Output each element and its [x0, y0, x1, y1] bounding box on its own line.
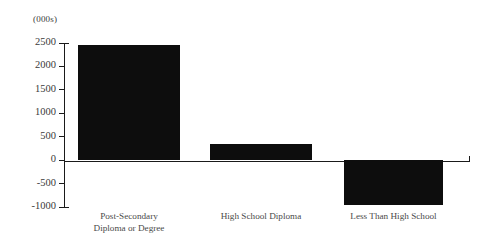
y-axis-tick-label: 0	[4, 153, 56, 164]
y-axis-tick	[59, 207, 65, 208]
y-axis-tick-label: 2500	[4, 36, 56, 47]
y-axis-tick-label: 2000	[4, 59, 56, 70]
y-axis-tick	[59, 113, 65, 114]
x-axis-category-label: Post-Secondary Diploma or Degree	[64, 211, 194, 234]
y-axis-tick-label: 500	[4, 130, 56, 141]
bar	[78, 45, 180, 160]
zero-baseline-end-cap	[469, 156, 470, 162]
y-axis-unit-caption: (000s)	[33, 14, 57, 24]
y-axis-tick	[59, 136, 65, 137]
y-axis-tick-label: 1500	[4, 83, 56, 94]
y-axis-tick-label: -1000	[4, 200, 56, 211]
bar-chart: (000s) 25002000150010005000-500-1000 Pos…	[0, 0, 486, 246]
bar	[210, 144, 312, 160]
y-axis-tick	[59, 183, 65, 184]
y-axis-tick	[59, 43, 65, 44]
bar	[344, 160, 443, 205]
x-axis-category-label: High School Diploma	[196, 211, 326, 223]
y-axis-tick	[59, 89, 65, 90]
y-axis-tick-label: -500	[4, 177, 56, 188]
y-axis-tick	[59, 66, 65, 67]
y-axis-tick-label: 1000	[4, 106, 56, 117]
x-axis-category-label: Less Than High School	[329, 211, 459, 223]
